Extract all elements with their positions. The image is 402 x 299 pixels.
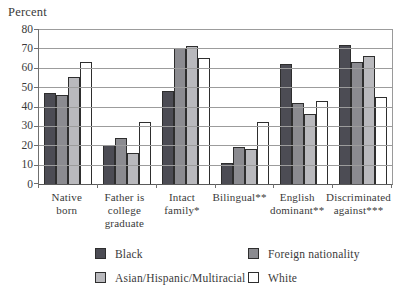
- y-axis-tick: [34, 107, 39, 108]
- legend-item: Black: [95, 247, 143, 260]
- y-axis-tick: [34, 87, 39, 88]
- gridline: [39, 165, 392, 166]
- x-axis-tick: [156, 184, 157, 188]
- legend-swatch: [248, 272, 259, 283]
- bar-white: [257, 122, 269, 184]
- bar-black: [221, 163, 233, 184]
- legend-label: Foreign nationality: [268, 248, 360, 260]
- bar-white: [139, 122, 151, 184]
- x-axis-labels: Native bornFather is college graduateInt…: [38, 191, 391, 231]
- category-label: Discriminated against***: [326, 191, 391, 231]
- bar-asian-hispanic-multiracial: [245, 149, 257, 184]
- y-axis-tick: [34, 68, 39, 69]
- x-axis-tick: [332, 184, 333, 188]
- y-axis-label: 80: [0, 23, 33, 36]
- figure: Percent Native bornFather is college gra…: [0, 0, 402, 299]
- y-axis-tick: [34, 145, 39, 146]
- y-axis-label: 70: [0, 42, 33, 55]
- bar-white: [80, 62, 92, 184]
- category-label: Native born: [38, 191, 96, 231]
- legend: BlackForeign nationalityAsian/Hispanic/M…: [95, 247, 395, 291]
- x-axis-tick: [391, 184, 392, 188]
- x-axis-tick: [215, 184, 216, 188]
- gridline: [39, 68, 392, 69]
- bar-black: [339, 45, 351, 185]
- gridline: [39, 48, 392, 49]
- x-axis-tick: [38, 184, 39, 188]
- legend-label: Black: [115, 248, 143, 260]
- legend-item: White: [248, 271, 297, 284]
- y-axis-label: 60: [0, 61, 33, 74]
- bar-foreign-nationality: [351, 62, 363, 184]
- legend-swatch: [95, 272, 106, 283]
- bar-asian-hispanic-multiracial: [127, 153, 139, 184]
- category-label: Intact family*: [153, 191, 211, 231]
- legend-swatch: [95, 248, 106, 259]
- x-axis-tick: [273, 184, 274, 188]
- category-label: Bilingual**: [211, 191, 269, 231]
- y-axis-label: 20: [0, 139, 33, 152]
- bar-black: [162, 91, 174, 184]
- y-axis-tick: [34, 48, 39, 49]
- legend-label: Asian/Hispanic/Multiracial: [115, 272, 245, 284]
- y-axis-label: 0: [0, 178, 33, 191]
- legend-swatch: [248, 248, 259, 259]
- bar-foreign-nationality: [56, 95, 68, 184]
- y-axis-tick: [34, 29, 39, 30]
- y-axis-label: 30: [0, 119, 33, 132]
- y-axis-tick: [34, 126, 39, 127]
- x-axis-tick: [97, 184, 98, 188]
- y-axis-label: 50: [0, 81, 33, 94]
- bar-asian-hispanic-multiracial: [304, 114, 316, 184]
- gridline: [39, 107, 392, 108]
- gridline: [39, 29, 392, 30]
- y-axis-title: Percent: [8, 5, 47, 20]
- y-axis-label: 10: [0, 158, 33, 171]
- y-axis-tick: [34, 165, 39, 166]
- gridline: [39, 87, 392, 88]
- bar-white: [375, 97, 387, 184]
- legend-label: White: [268, 272, 297, 284]
- gridline: [39, 145, 392, 146]
- bar-black: [280, 64, 292, 184]
- gridline: [39, 126, 392, 127]
- category-label: English dominant**: [268, 191, 326, 231]
- bar-asian-hispanic-multiracial: [68, 77, 80, 184]
- legend-item: Asian/Hispanic/Multiracial: [95, 271, 245, 284]
- plot-area: [38, 29, 393, 185]
- bar-white: [316, 101, 328, 184]
- category-label: Father is college graduate: [96, 191, 154, 231]
- bar-foreign-nationality: [292, 103, 304, 184]
- y-axis-label: 40: [0, 100, 33, 113]
- legend-item: Foreign nationality: [248, 247, 360, 260]
